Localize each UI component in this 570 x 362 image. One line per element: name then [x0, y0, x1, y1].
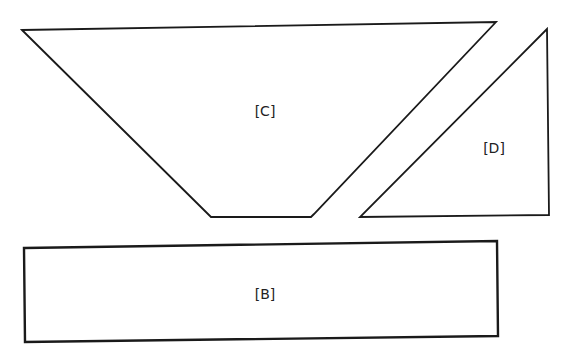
diagram-canvas: [C] [D] [B] [0, 0, 570, 362]
label-b: [B] [255, 286, 276, 302]
shape-c-trapezoid [22, 22, 496, 217]
shape-d-triangle [360, 29, 549, 217]
label-d: [D] [483, 140, 505, 156]
label-c: [C] [255, 103, 276, 119]
